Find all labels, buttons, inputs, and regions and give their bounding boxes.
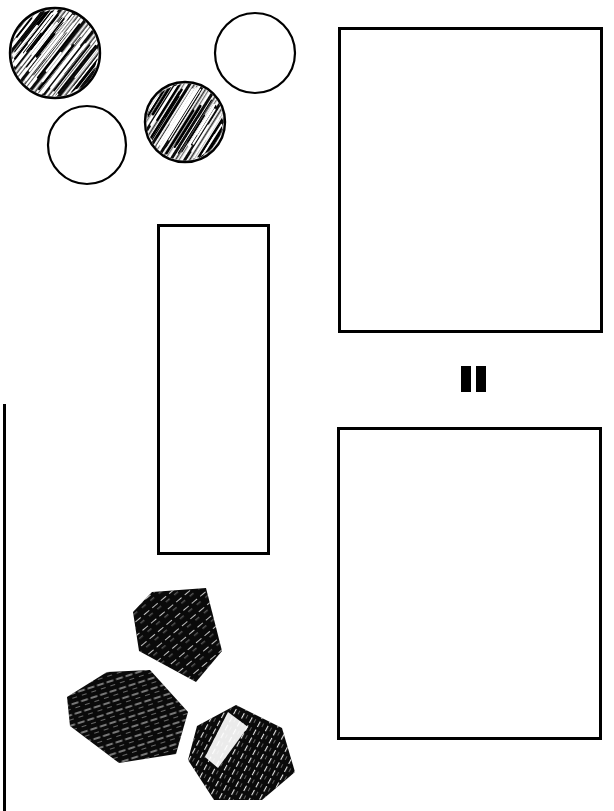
double-bar-glyph-left-bar — [461, 366, 471, 392]
plain-circle-1 — [215, 13, 295, 93]
figure-canvas — [0, 0, 614, 811]
plain-circle-2 — [48, 106, 126, 184]
vertical-rule — [3, 404, 6, 811]
upper-square — [340, 29, 602, 332]
lower-square — [339, 429, 601, 739]
figure-page: Black and white line drawing: four circl… — [0, 0, 614, 811]
double-bar-glyph-right-bar — [476, 366, 486, 392]
tall-rectangle — [159, 226, 269, 554]
